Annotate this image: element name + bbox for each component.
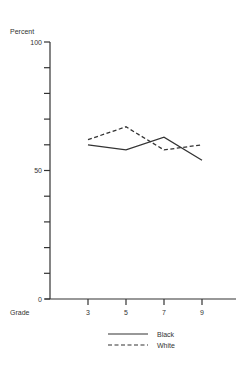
x-tick-label: 5 [124, 309, 128, 316]
legend-label-black: Black [157, 331, 175, 338]
x-axis-label: Grade [10, 309, 30, 316]
line-chart: 050100 3579 Percent Grade BlackWhite [0, 0, 241, 367]
axes: 050100 3579 [30, 39, 236, 317]
series-line-black [88, 137, 202, 160]
legend: BlackWhite [108, 331, 175, 349]
y-tick-label: 50 [34, 167, 42, 174]
y-ticks: 050100 [30, 39, 50, 303]
x-tick-label: 9 [200, 309, 204, 316]
y-tick-label: 0 [38, 296, 42, 303]
series-group [88, 127, 202, 160]
x-tick-label: 7 [162, 309, 166, 316]
y-tick-label: 100 [30, 39, 42, 46]
legend-label-white: White [157, 342, 175, 349]
x-tick-label: 3 [86, 309, 90, 316]
y-axis-label: Percent [10, 28, 34, 35]
x-ticks: 3579 [86, 299, 204, 316]
